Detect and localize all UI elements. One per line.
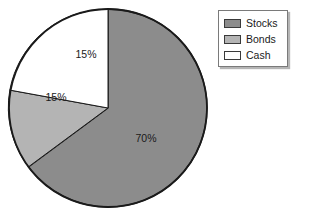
pie-slice-label-stocks: 70% — [135, 132, 156, 144]
legend-item-stocks[interactable]: Stocks — [224, 15, 283, 31]
legend-label-bonds: Bonds — [246, 33, 276, 45]
pie-slice-label-bonds: 15% — [45, 91, 66, 103]
legend-item-bonds[interactable]: Bonds — [224, 31, 283, 47]
legend-swatch-stocks — [224, 19, 241, 28]
chart-legend: Stocks Bonds Cash — [218, 10, 288, 67]
pie-chart-figure: 70% 15% 15% Stocks Bonds Cash — [0, 0, 309, 216]
legend-swatch-bonds — [224, 35, 241, 44]
legend-swatch-cash — [224, 51, 241, 60]
legend-label-cash: Cash — [246, 49, 271, 61]
legend-item-cash[interactable]: Cash — [224, 47, 283, 63]
legend-label-stocks: Stocks — [246, 17, 278, 29]
pie-slice-label-cash: 15% — [75, 48, 96, 60]
